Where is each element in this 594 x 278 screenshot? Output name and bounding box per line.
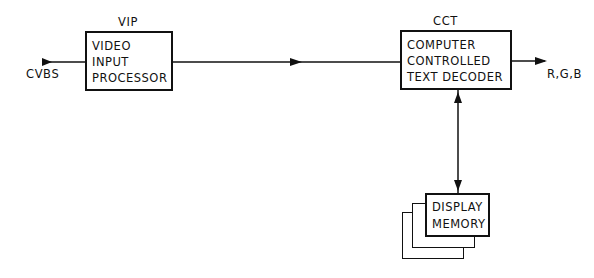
display-memory-block: DISPLAY MEMORY: [425, 193, 490, 237]
memory-line-2: MEMORY: [432, 216, 488, 233]
vip-block: VIDEO INPUT PROCESSOR: [85, 31, 173, 91]
bus-down-arrow-icon: [454, 180, 462, 191]
rgb-label: R,G,B: [547, 67, 582, 81]
cct-line-2: CONTROLLED: [407, 53, 510, 69]
cct-line-3: TEXT DECODER: [407, 69, 510, 85]
cct-line-1: COMPUTER: [407, 37, 510, 53]
cct-block: COMPUTER CONTROLLED TEXT DECODER: [400, 30, 512, 90]
vip-line-3: PROCESSOR: [92, 70, 171, 86]
rgb-arrow-icon: [535, 57, 547, 65]
cct-tag: CCT: [433, 14, 458, 28]
vip-tag: VIP: [118, 15, 138, 29]
vip-line-2: INPUT: [92, 54, 171, 70]
vip-line-1: VIDEO: [92, 38, 171, 54]
cvbs-arrow-icon: [42, 58, 52, 66]
bus-up-arrow-icon: [454, 92, 462, 103]
cvbs-label: CVBS: [26, 67, 59, 81]
vip-to-cct-arrow-icon: [290, 58, 302, 66]
memory-line-1: DISPLAY: [432, 199, 488, 216]
